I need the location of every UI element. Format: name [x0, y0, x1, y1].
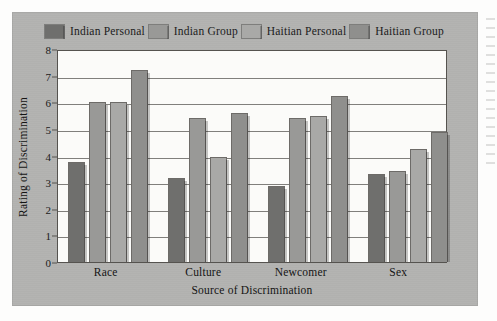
x-axis-tick-label: Sex	[350, 266, 448, 278]
bar	[189, 118, 206, 262]
bar-group	[358, 51, 458, 262]
legend-item-label: Indian Group	[174, 25, 238, 37]
legend-swatch-icon	[148, 24, 169, 39]
bar-group	[58, 51, 158, 262]
figure-root: Indian PersonalIndian GroupHaitian Perso…	[0, 0, 497, 321]
legend-item-label: Haitian Personal	[267, 25, 347, 37]
bar-group	[258, 51, 358, 262]
bar	[368, 174, 385, 262]
bar	[89, 102, 106, 262]
legend-item-label: Indian Personal	[70, 25, 145, 37]
bar	[331, 96, 348, 262]
legend-swatch-icon	[349, 24, 370, 39]
x-axis-tick-label: Newcomer	[252, 266, 350, 278]
y-axis-tick-label: 1	[17, 230, 57, 242]
bar-groups	[58, 51, 446, 262]
bar-group	[158, 51, 258, 262]
bar	[168, 178, 185, 262]
bar	[289, 118, 306, 262]
bar	[231, 113, 248, 262]
bar	[410, 149, 427, 262]
y-axis-tick-label: 8	[17, 44, 57, 56]
legend-item-label: Haitian Group	[375, 25, 444, 37]
y-axis-tick-label: 4	[17, 151, 57, 163]
bar	[268, 186, 285, 262]
y-axis-tick-label: 0	[17, 257, 57, 269]
legend-item: Haitian Group	[349, 24, 444, 39]
x-axis-tick-label: Race	[57, 266, 155, 278]
bar	[110, 102, 127, 262]
plot-area	[57, 50, 447, 263]
plot-wrap: 012345678	[57, 50, 447, 263]
x-axis-tick-labels: RaceCultureNewcomerSex	[57, 266, 447, 278]
legend-swatch-icon	[241, 24, 262, 39]
bar	[310, 116, 327, 262]
y-axis-tick-label: 7	[17, 71, 57, 83]
bar	[431, 132, 448, 262]
bar	[131, 70, 148, 262]
legend-swatch-icon	[44, 24, 65, 39]
y-axis-tick-label: 2	[17, 204, 57, 216]
legend-item: Indian Personal	[44, 24, 145, 39]
y-axis-tick-label: 5	[17, 124, 57, 136]
x-axis-title: Source of Discrimination	[57, 284, 447, 296]
y-axis-tick-label: 3	[17, 177, 57, 189]
x-axis-tick-label: Culture	[155, 266, 253, 278]
bar	[210, 157, 227, 262]
bar	[389, 171, 406, 262]
legend-item: Haitian Personal	[241, 24, 347, 39]
bar	[68, 162, 85, 262]
legend-item: Indian Group	[148, 24, 238, 39]
y-axis-tick-label: 6	[17, 97, 57, 109]
page-margin-artifact	[486, 18, 495, 168]
chart-legend: Indian PersonalIndian GroupHaitian Perso…	[44, 20, 444, 42]
